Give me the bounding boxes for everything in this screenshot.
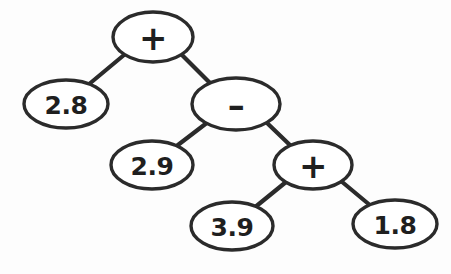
tree-node-leaf-2-9[interactable]: 2.9	[111, 141, 193, 189]
node-label: 3.9	[210, 213, 253, 242]
node-label: –	[228, 85, 245, 125]
node-label: 1.8	[373, 211, 416, 240]
tree-edge	[182, 55, 212, 85]
tree-edge	[88, 55, 124, 85]
node-label: 2.8	[44, 91, 87, 120]
expression-tree-figure: +2.8–2.9+3.91.8	[0, 0, 451, 274]
tree-node-mid-plus[interactable]: +	[274, 141, 352, 189]
tree-edge	[174, 122, 208, 148]
tree-edge	[254, 182, 286, 208]
node-label: 2.9	[130, 152, 173, 181]
tree-edge	[266, 122, 292, 147]
tree-node-leaf-3-9[interactable]: 3.9	[191, 202, 273, 250]
node-label: +	[299, 146, 327, 186]
tree-node-minus[interactable]: –	[192, 78, 280, 130]
tree-node-leaf-1-8[interactable]: 1.8	[353, 200, 437, 248]
tree-edge	[341, 181, 371, 206]
node-label: +	[139, 18, 167, 58]
expression-tree-canvas: +2.8–2.9+3.91.8	[0, 0, 451, 274]
tree-node-leaf-2-8[interactable]: 2.8	[24, 80, 108, 128]
tree-node-root-plus[interactable]: +	[113, 12, 193, 62]
nodes-group: +2.8–2.9+3.91.8	[24, 12, 437, 250]
